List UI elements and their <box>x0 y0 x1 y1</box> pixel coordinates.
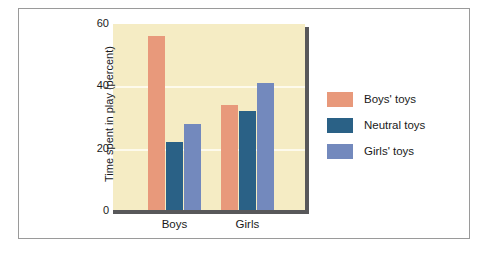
bar <box>148 36 165 211</box>
x-axis-line <box>113 210 309 214</box>
legend-swatch <box>327 92 353 107</box>
plot-right-edge <box>305 27 309 213</box>
gridline <box>113 86 305 88</box>
gridline <box>113 149 305 151</box>
x-tick-label: Boys <box>134 218 214 230</box>
y-axis-title: Time spent in play (percent) <box>103 34 115 194</box>
legend-swatch <box>327 118 353 133</box>
legend-label: Girls' toys <box>364 145 414 157</box>
x-tick-label: Girls <box>207 218 287 230</box>
bar <box>257 83 274 211</box>
legend-swatch <box>327 144 353 159</box>
bar <box>239 111 256 211</box>
legend-item: Girls' toys <box>327 138 462 164</box>
bar <box>221 105 238 211</box>
chart-figure: 0204060 Time spent in play (percent) Boy… <box>0 0 489 255</box>
plot-area <box>113 24 305 211</box>
legend-item: Boys' toys <box>327 86 462 112</box>
legend-item: Neutral toys <box>327 112 462 138</box>
legend-label: Neutral toys <box>364 119 425 131</box>
chart-legend: Boys' toysNeutral toysGirls' toys <box>327 86 462 164</box>
bar <box>184 124 201 211</box>
legend-label: Boys' toys <box>364 93 416 105</box>
y-axis-title-wrap: Time spent in play (percent) <box>60 0 100 255</box>
bar <box>166 142 183 211</box>
